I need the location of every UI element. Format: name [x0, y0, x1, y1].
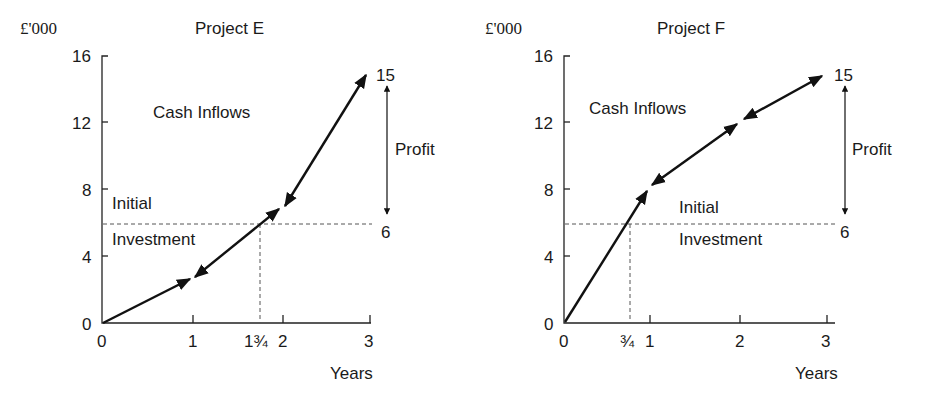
series-label: Cash Inflows [153, 103, 250, 122]
svg-text:0: 0 [559, 332, 568, 351]
charts-canvas: £'000 Project E 16 12 8 4 0 0 1 1¾ 2 3 [0, 0, 930, 404]
svg-text:3: 3 [821, 332, 830, 351]
svg-text:0: 0 [544, 315, 553, 334]
investment-value-label: 6 [381, 223, 390, 242]
svg-text:2: 2 [735, 332, 744, 351]
chart-project-f: £'000 Project F 16 12 8 4 0 0 ¾ 1 2 3 Ye… [485, 19, 892, 383]
payback-label: ¾ [620, 332, 635, 351]
series-label: Cash Inflows [589, 99, 686, 118]
svg-text:12: 12 [534, 114, 553, 133]
chart-title: Project E [195, 19, 264, 38]
svg-text:4: 4 [82, 248, 91, 267]
payback-label: 1¾ [244, 332, 268, 351]
investment-label: Investment [112, 230, 195, 249]
initial-label: Initial [112, 194, 152, 213]
profit-label: Profit [852, 140, 892, 159]
svg-text:2: 2 [278, 332, 287, 351]
y-ticks [102, 122, 108, 256]
x-tick-labels: 0 1 1¾ 2 3 [97, 332, 373, 351]
initial-label: Initial [679, 198, 719, 217]
axes [102, 56, 371, 323]
x-axis-label: Years [795, 364, 838, 383]
svg-text:16: 16 [72, 47, 91, 66]
investment-label: Investment [679, 230, 762, 249]
investment-value-label: 6 [840, 223, 849, 242]
y-tick-labels: 16 12 8 4 0 [534, 47, 553, 334]
svg-text:1: 1 [188, 332, 197, 351]
x-ticks [193, 315, 370, 323]
svg-text:1: 1 [645, 332, 654, 351]
svg-text:12: 12 [72, 114, 91, 133]
chart-project-e: £'000 Project E 16 12 8 4 0 0 1 1¾ 2 3 [20, 19, 435, 383]
svg-text:4: 4 [544, 248, 553, 267]
svg-text:8: 8 [82, 181, 91, 200]
chart-title: Project F [657, 19, 725, 38]
axes [564, 56, 835, 323]
y-tick-labels: 16 12 8 4 0 [72, 47, 91, 334]
svg-text:0: 0 [97, 332, 106, 351]
y-unit-label: £'000 [485, 19, 522, 38]
svg-text:3: 3 [364, 332, 373, 351]
final-value-label: 15 [376, 66, 395, 85]
profit-label: Profit [395, 140, 435, 159]
x-tick-labels: 0 ¾ 1 2 3 [559, 332, 830, 351]
svg-text:8: 8 [544, 181, 553, 200]
y-unit-label: £'000 [20, 19, 57, 38]
svg-text:0: 0 [82, 315, 91, 334]
y-ticks [564, 122, 570, 256]
x-axis-label: Years [330, 364, 373, 383]
x-ticks [650, 315, 827, 323]
svg-text:16: 16 [534, 47, 553, 66]
final-value-label: 15 [834, 66, 853, 85]
